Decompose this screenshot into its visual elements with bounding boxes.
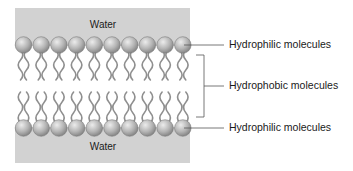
phosphate-head (33, 37, 50, 54)
water-bottom-label: Water (90, 141, 116, 152)
phosphate-head (51, 120, 68, 137)
phosphate-head (157, 37, 174, 54)
phosphate-head (33, 120, 50, 137)
phosphate-head (86, 120, 103, 137)
hydrophobic-bracket (196, 55, 224, 117)
fatty-acid-tail (95, 50, 100, 80)
phosphate-head (104, 120, 121, 137)
hydrophobic-tails (18, 50, 188, 123)
fatty-acid-tail (177, 50, 182, 80)
fatty-acid-tail (177, 92, 182, 123)
fatty-acid-tail (18, 50, 23, 80)
fatty-acid-tail (160, 92, 165, 123)
phosphate-head (157, 120, 174, 137)
fatty-acid-tail (107, 92, 112, 123)
fatty-acid-tail (148, 92, 153, 123)
fatty-acid-tail (24, 92, 29, 123)
fatty-acid-tail (95, 92, 100, 123)
phosphate-head (104, 37, 121, 54)
phosphate-head (139, 120, 156, 137)
label-bottom-hydrophilic: Hydrophilic molecules (229, 121, 331, 133)
phosphate-head (121, 37, 138, 54)
fatty-acid-tail (54, 50, 59, 80)
phosphate-head (121, 120, 138, 137)
fatty-acid-tail (36, 50, 41, 80)
phosphate-head (139, 37, 156, 54)
fatty-acid-tail (142, 50, 147, 80)
fatty-acid-tail (60, 50, 65, 80)
fatty-acid-tail (130, 50, 135, 80)
phosphate-head (68, 120, 85, 137)
fatty-acid-tail (77, 92, 82, 123)
water-top-label: Water (90, 19, 116, 30)
fatty-acid-tail (113, 50, 118, 80)
fatty-acid-tail (124, 92, 129, 123)
fatty-acid-tail (183, 92, 188, 123)
fatty-acid-tail (113, 92, 118, 123)
label-top-hydrophilic: Hydrophilic molecules (229, 38, 331, 50)
fatty-acid-tail (183, 50, 188, 80)
fatty-acid-tail (42, 50, 47, 80)
fatty-acid-tail (148, 50, 153, 80)
fatty-acid-tail (71, 50, 76, 80)
fatty-acid-tail (24, 50, 29, 80)
fatty-acid-tail (160, 50, 165, 80)
fatty-acid-tail (166, 50, 171, 80)
phosphate-head (68, 37, 85, 54)
fatty-acid-tail (36, 92, 41, 123)
label-hydrophobic: Hydrophobic molecules (229, 79, 338, 91)
phosphate-head (15, 120, 32, 137)
fatty-acid-tail (166, 92, 171, 123)
fatty-acid-tail (60, 92, 65, 123)
fatty-acid-tail (77, 50, 82, 80)
fatty-acid-tail (89, 50, 94, 80)
fatty-acid-tail (54, 92, 59, 123)
fatty-acid-tail (71, 92, 76, 123)
phosphate-head (15, 37, 32, 54)
phosphate-head (51, 37, 68, 54)
fatty-acid-tail (89, 92, 94, 123)
fatty-acid-tail (18, 92, 23, 123)
fatty-acid-tail (42, 92, 47, 123)
fatty-acid-tail (142, 92, 147, 123)
fatty-acid-tail (124, 50, 129, 80)
phosphate-head (86, 37, 103, 54)
fatty-acid-tail (107, 50, 112, 80)
fatty-acid-tail (130, 92, 135, 123)
